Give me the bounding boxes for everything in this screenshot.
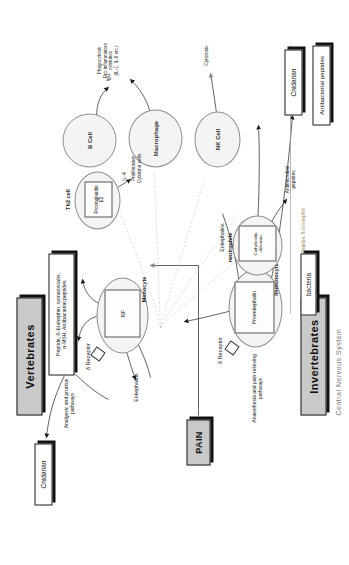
cell-b: B Cell: [62, 113, 116, 167]
cnidarian-top-label: Cnidarian: [39, 460, 46, 488]
delta-receptor-invertebrate: δ Receptor: [216, 327, 223, 373]
side-title: Central Nervous System: [334, 215, 341, 415]
il4-label: IL-4: [120, 161, 126, 191]
delta-receptor-vertebrate: δ Receptor: [84, 333, 91, 379]
pain-box: PAIN: [186, 419, 210, 465]
proliferation-label: Proliferation Cytokine cells: [130, 137, 142, 199]
pain-label: PAIN: [193, 431, 203, 453]
vertebrates-label: Vertebrates: [23, 324, 36, 388]
enkephalins-label-vertebrate: Enkephalins: [132, 359, 138, 415]
antibacterial-peptides-box: Antibacterial peptides: [312, 45, 330, 125]
cytotoxic-label: Cytotoxic: [202, 33, 208, 77]
phagocytosis-label: Phagocytosis Pro-inflammatory cytokines …: [96, 25, 118, 95]
receptor-glyph-invertebrate: [224, 340, 239, 355]
antimicrobial-label: Antimicrobial peptides: [284, 149, 296, 209]
prostaglandin-label: Prostaglandin E2: [93, 185, 104, 213]
peptide-arrow-label: Peptide, ß-Endorphin: [300, 195, 306, 265]
th2-inner-box: Prostaglandin E2: [84, 181, 112, 217]
monocyte-name: Monocyte: [140, 259, 147, 319]
invertebrates-label: Invertebrates: [307, 319, 320, 393]
figure-canvas: Vertebrates Invertebrates PAIN Peptide, …: [0, 0, 349, 565]
cnidarian-bottom-label: Cnidarian: [289, 68, 296, 96]
nfkb-label: NF: [119, 309, 125, 316]
anaesthesia-pathway-label: Anaesthesia and pain-relieving pathways: [250, 347, 262, 429]
proenkephalin-label: Proenkephalin: [251, 290, 257, 323]
b-cell-name: B Cell: [86, 132, 92, 149]
peptide-box: Peptide, ß-Endorphin, somatostatin, α-MS…: [48, 253, 74, 375]
immunocyte-inner-box: Proenkephalin: [234, 281, 274, 333]
enkephalins-label-invertebrate: Enkephalins: [218, 209, 224, 265]
nk-cell-name: NK Cell: [214, 128, 220, 149]
bacteria-label: bacteria: [304, 272, 311, 295]
neutrophile-inner-box: Cathelicidin, defensin: [238, 225, 276, 261]
monocyte-inner-box: NF: [104, 289, 140, 337]
cnidarian-bottom-box: Cnidarian: [284, 49, 302, 115]
th2-cell-name: Th2 cell: [64, 173, 71, 225]
macrophage-name: Macrophage: [152, 120, 158, 155]
antibacterial-peptides-label: Antibacterial peptides: [317, 55, 324, 114]
receptor-glyph-vertebrate: [90, 346, 105, 361]
group-box-vertebrates: Vertebrates: [16, 297, 42, 415]
cathelicidin-label: Cathelicidin, defensin: [252, 231, 262, 255]
analgesic-pathway-label: Analgesic and pruritus pathways: [62, 367, 74, 439]
neutrophile-name: neutrophile: [226, 215, 232, 279]
peptide-box-text: Peptide, ß-Endorphin, somatostatin, α-MS…: [55, 273, 67, 356]
cnidarian-top-box: Cnidarian: [34, 443, 52, 505]
cell-nk: NK Cell: [194, 111, 240, 167]
